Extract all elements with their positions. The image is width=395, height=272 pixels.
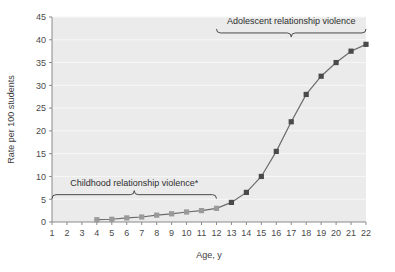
- x-axis-tick-label: 20: [331, 228, 341, 238]
- data-point-marker: [154, 213, 159, 218]
- data-point-marker: [169, 211, 174, 216]
- x-axis-tick-label: 21: [346, 228, 356, 238]
- x-axis-tick-label: 12: [211, 228, 221, 238]
- x-axis-tick-label: 4: [94, 228, 99, 238]
- x-axis-tick-label: 2: [64, 228, 69, 238]
- y-axis-tick-label: 40: [36, 35, 46, 45]
- y-axis-tick-label: 25: [36, 103, 46, 113]
- plot-area-background: [52, 17, 366, 222]
- data-point-marker: [109, 217, 114, 222]
- x-axis-tick-label: 22: [361, 228, 371, 238]
- data-point-marker: [139, 214, 144, 219]
- x-axis-tick-label: 7: [139, 228, 144, 238]
- data-point-marker: [334, 60, 339, 65]
- data-point-marker: [259, 174, 264, 179]
- x-axis-tick-label: 10: [182, 228, 192, 238]
- data-point-marker: [184, 209, 189, 214]
- y-axis-tick-label: 15: [36, 149, 46, 159]
- x-axis-tick-label: 17: [286, 228, 296, 238]
- data-point-marker: [124, 215, 129, 220]
- x-axis-tick-label: 18: [301, 228, 311, 238]
- data-point-marker: [229, 200, 234, 205]
- y-axis-tick-label: 45: [36, 12, 46, 22]
- y-axis-tick-label: 0: [41, 217, 46, 227]
- x-axis-tick-label: 1: [49, 228, 54, 238]
- x-axis-tick-label: 5: [109, 228, 114, 238]
- x-axis-tick-label: 19: [316, 228, 326, 238]
- y-axis-tick-label: 10: [36, 172, 46, 182]
- childhood-bracket-label: Childhood relationship violence*: [70, 178, 199, 188]
- chart-figure: 051015202530354045 123456789101112131415…: [0, 0, 395, 272]
- y-axis-title: Rate per 100 students: [6, 75, 16, 164]
- adolescent-bracket-label: Adolescent relationship violence: [227, 16, 356, 26]
- data-point-marker: [304, 92, 309, 97]
- x-axis-tick-label: 13: [226, 228, 236, 238]
- y-axis-tick-label: 20: [36, 126, 46, 136]
- data-point-marker: [214, 206, 219, 211]
- data-point-marker: [199, 208, 204, 213]
- y-axis-tick-label: 30: [36, 81, 46, 91]
- x-axis-title: Age, y: [196, 250, 222, 260]
- x-axis-tick-label: 6: [124, 228, 129, 238]
- data-point-marker: [274, 149, 279, 154]
- data-point-marker: [363, 42, 368, 47]
- y-axis-tick-label: 5: [41, 195, 46, 205]
- data-point-marker: [289, 119, 294, 124]
- x-axis-tick-label: 15: [256, 228, 266, 238]
- x-axis-tick-label: 16: [271, 228, 281, 238]
- data-point-marker: [94, 217, 99, 222]
- rate-per-100-students-line-chart: 051015202530354045 123456789101112131415…: [0, 0, 395, 272]
- data-point-marker: [348, 49, 353, 54]
- x-axis-tick-label: 9: [169, 228, 174, 238]
- data-point-marker: [319, 74, 324, 79]
- x-axis-tick-label: 8: [154, 228, 159, 238]
- x-axis-tick-label: 14: [241, 228, 251, 238]
- x-axis-tick-label: 3: [79, 228, 84, 238]
- x-axis-tick-label: 11: [197, 228, 206, 238]
- y-axis-tick-label: 35: [36, 58, 46, 68]
- data-point-marker: [244, 190, 249, 195]
